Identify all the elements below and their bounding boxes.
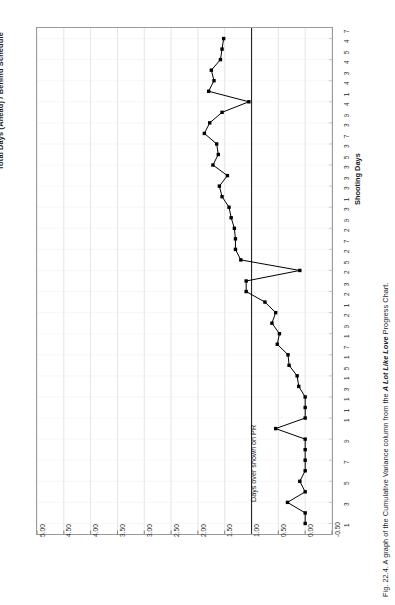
data-point [219,58,222,61]
data-point [244,279,247,282]
y-axis-tick-label: -0.50 [334,522,341,537]
x-axis-tick-label: 3 [343,501,350,507]
data-point [298,480,301,483]
data-point [207,90,210,93]
figure-caption: Fig. 22.4. A graph of the Cumulative Var… [381,282,390,597]
data-point [286,501,289,504]
data-point [220,195,223,198]
y-axis-tick-label: 1.00 [253,524,260,537]
x-axis-tick-label: 1 3 [343,385,350,400]
y-axis-tick-label: 1.50 [226,524,233,537]
x-axis-tick-label: 3 1 [343,196,350,211]
data-point [220,111,223,114]
x-axis-tick-label: 3 5 [343,154,350,169]
y-axis-tick-label: 4.00 [92,524,99,537]
data-point [217,153,220,156]
figure-page: Total Days (Ahead) / Behind Schedule Day… [0,0,395,605]
data-point [297,385,300,388]
data-point [233,227,236,230]
x-axis-tick-label: 2 5 [343,259,350,274]
data-point [212,79,215,82]
data-point [287,364,290,367]
data-point [227,206,230,209]
data-point [211,163,214,166]
data-point [234,237,237,240]
x-axis-tick-label: 4 1 [343,90,350,105]
caption-suffix: Progress Chart. [381,282,390,336]
x-axis-tick-label: 5 [343,480,350,486]
plot-svg [37,28,332,534]
data-point [286,353,289,356]
chart-title: Total Days (Ahead) / Behind Schedule [0,0,5,170]
data-point [229,216,232,219]
data-point [303,395,306,398]
x-axis-tick-label: 3 3 [343,175,350,190]
x-axis-title: Shooting Days [353,153,362,205]
x-axis-tick-label: 1 1 [343,407,350,422]
data-point [220,47,223,50]
data-point [303,448,306,451]
y-axis-tick-label: 2.50 [173,524,180,537]
y-axis-tick-label: 0.00 [307,524,314,537]
x-axis-tick-label: 1 5 [343,364,350,379]
data-point [274,427,277,430]
data-point [218,184,221,187]
data-point [226,174,229,177]
data-point [263,300,266,303]
data-point [303,437,306,440]
x-axis-tick-label: 2 1 [343,301,350,316]
y-axis-tick-label: 3.50 [119,524,126,537]
data-point [303,469,306,472]
data-point [244,290,247,293]
data-point [276,343,279,346]
data-point [234,248,237,251]
data-point [222,37,225,40]
x-axis-tick-label: 2 9 [343,217,350,232]
data-point [303,490,306,493]
x-axis-tick-label: 1 [343,522,350,528]
x-axis-tick-label: 4 3 [343,69,350,84]
data-point [295,374,298,377]
data-point [215,142,218,145]
x-axis-tick-label: 3 9 [343,111,350,126]
x-axis-tick-label: 2 7 [343,238,350,253]
y-axis-tick-label: 3.00 [146,524,153,537]
x-axis-tick-label: 4 7 [343,27,350,42]
y-axis-tick-label: 5.00 [39,524,46,537]
data-point [298,269,301,272]
x-axis-tick-label: 2 3 [343,280,350,295]
x-axis-tick-label: 7 [343,458,350,464]
x-axis-tick-label: 3 7 [343,132,350,147]
x-axis-tick-label: 4 5 [343,48,350,63]
plot-area: Days over shown on PR [36,27,333,535]
x-axis-tick-label: 9 [343,437,350,443]
data-point [203,132,206,135]
data-point [274,311,277,314]
x-axis-tick-label: 1 7 [343,343,350,358]
data-point [278,332,281,335]
y-axis-tick-label: 2.00 [200,524,207,537]
data-point [208,121,211,124]
caption-title: A Lot Like Love [381,336,390,391]
data-point [247,100,250,103]
data-point [303,511,306,514]
y-axis-tick-label: 0.50 [280,524,287,537]
data-point [239,258,242,261]
data-point [303,459,306,462]
data-point [303,406,306,409]
reference-line-annotation: Days over shown on PR [249,425,258,502]
y-axis-tick-label: 4.50 [65,524,72,537]
data-point [303,416,306,419]
caption-prefix: Fig. 22.4. A graph of the Cumulative Var… [381,391,390,597]
data-point [210,68,213,71]
x-axis-tick-label: 1 9 [343,322,350,337]
data-point [270,321,273,324]
